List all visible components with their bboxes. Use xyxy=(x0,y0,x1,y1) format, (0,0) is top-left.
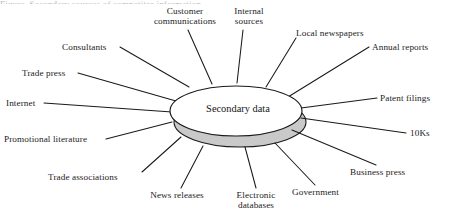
leader-line-trade-associations xyxy=(142,137,181,172)
node-label-electronic-databases: Electronic databases xyxy=(228,190,284,210)
node-label-consultants: Consultants xyxy=(62,42,124,52)
node-label-patent-filings: Patent filings xyxy=(380,93,452,103)
leader-line-customer-communications xyxy=(188,30,212,84)
node-label-internet: Internet xyxy=(6,98,50,108)
node-label-trade-associations: Trade associations xyxy=(48,172,140,182)
node-label-promotional-literature: Promotional literature xyxy=(4,134,108,144)
node-label-customer-communications: Customer communications xyxy=(148,6,222,26)
node-label-news-releases: News releases xyxy=(142,190,212,200)
node-label-trade-press: Trade press xyxy=(22,68,82,78)
leader-line-internal-sources xyxy=(237,30,243,83)
leader-line-trade-press xyxy=(78,73,176,101)
leader-line-news-releases xyxy=(181,146,203,188)
leader-line-promotional-literature xyxy=(106,122,172,139)
leader-line-business-press xyxy=(292,130,376,165)
node-label-government: Government xyxy=(292,187,352,197)
node-label-10ks: 10Ks xyxy=(410,128,450,138)
figure-canvas: Figure Secondary sources of competitor i… xyxy=(0,0,456,215)
node-label-business-press: Business press xyxy=(350,167,424,177)
node-label-local-newspapers: Local newspapers xyxy=(296,28,380,38)
leader-line-patent-filings xyxy=(301,98,377,108)
node-label-internal-sources: Internal sources xyxy=(226,6,272,26)
leader-line-annual-reports xyxy=(288,47,369,97)
leader-line-10ks xyxy=(301,118,406,133)
leader-line-government xyxy=(275,143,315,185)
leader-line-consultants xyxy=(120,47,189,87)
leader-line-internet xyxy=(44,103,172,112)
center-node-label: Secondary data xyxy=(186,103,290,114)
leader-line-electronic-databases xyxy=(245,147,256,188)
leader-line-local-newspapers xyxy=(266,38,296,87)
node-label-annual-reports: Annual reports xyxy=(372,42,448,52)
